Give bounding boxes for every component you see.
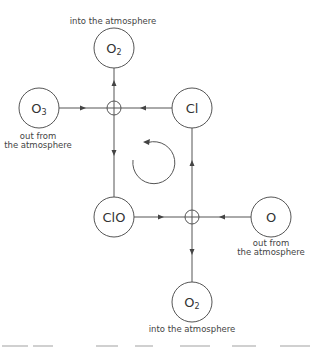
arrow-right-icon [158, 215, 164, 220]
arrow-right-icon [80, 106, 86, 111]
arrow-down-icon [112, 150, 117, 156]
reaction-junction-2 [185, 210, 199, 224]
cycle-arrow-icon [133, 139, 175, 184]
caption-into-atmosphere: into the atmosphere [70, 16, 157, 26]
node-clo: ClO [94, 197, 134, 237]
svg-text:Cl: Cl [186, 101, 199, 116]
arrow-down-icon [190, 249, 195, 255]
arrow-left-icon [219, 215, 225, 220]
arrow-up-icon [112, 80, 117, 86]
node-o2-top: O2 into the atmosphere [70, 16, 157, 68]
node-cl: Cl [172, 88, 212, 128]
svg-text:ClO: ClO [103, 210, 126, 225]
svg-text:O: O [266, 210, 276, 225]
caption-the-atmosphere: the atmosphere [4, 140, 72, 150]
caption-the-atmosphere: the atmosphere [237, 247, 305, 257]
cropped-caption-fragments [0, 343, 323, 349]
ozone-cycle-diagram: O2 into the atmosphere O3 out from the a… [0, 0, 323, 349]
node-o3: O3 out from the atmosphere [4, 88, 72, 150]
arrow-up-icon [190, 160, 195, 166]
reaction-junction-1 [107, 101, 121, 115]
caption-into-atmosphere: into the atmosphere [149, 324, 236, 334]
arrow-left-icon [140, 106, 146, 111]
node-o2-bottom: O2 into the atmosphere [149, 282, 236, 334]
node-o: O out from the atmosphere [237, 197, 305, 257]
